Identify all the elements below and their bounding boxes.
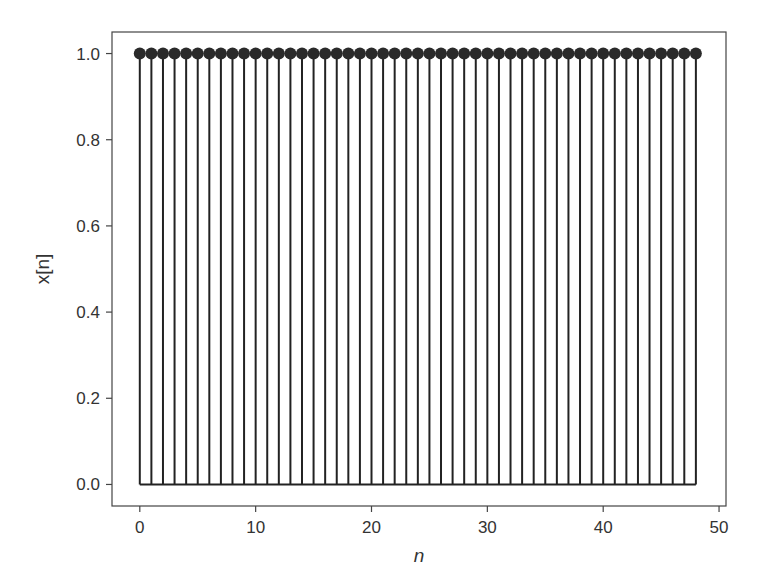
stem-marker <box>203 48 215 60</box>
x-axis-ticks: 01020304050 <box>135 506 728 537</box>
stem-marker <box>192 48 204 60</box>
stem-marker <box>644 48 656 60</box>
x-tick-label: 30 <box>478 518 497 537</box>
x-axis-label: n <box>414 545 425 566</box>
stem-marker <box>296 48 308 60</box>
stem-markers <box>134 48 702 60</box>
stem-marker <box>308 48 320 60</box>
stem-marker <box>145 48 157 60</box>
stem-marker <box>690 48 702 60</box>
stem-marker <box>481 48 493 60</box>
stem-marker <box>528 48 540 60</box>
x-tick-label: 40 <box>594 518 613 537</box>
stem-marker <box>169 48 181 60</box>
y-tick-label: 0.2 <box>76 389 100 408</box>
stem-marker <box>667 48 679 60</box>
y-tick-label: 0.6 <box>76 217 100 236</box>
stem-marker <box>423 48 435 60</box>
x-tick-label: 0 <box>135 518 144 537</box>
stem-marker <box>586 48 598 60</box>
stem-marker <box>400 48 412 60</box>
stem-marker <box>180 48 192 60</box>
y-axis-ticks: 0.00.20.40.60.81.0 <box>76 45 112 495</box>
stem-marker <box>655 48 667 60</box>
y-tick-label: 0.8 <box>76 131 100 150</box>
stem-marker <box>226 48 238 60</box>
stem-marker <box>250 48 262 60</box>
stem-marker <box>539 48 551 60</box>
stem-marker <box>632 48 644 60</box>
stem-marker <box>157 48 169 60</box>
stem-marker <box>562 48 574 60</box>
stem-marker <box>377 48 389 60</box>
stem-marker <box>134 48 146 60</box>
x-tick-label: 20 <box>362 518 381 537</box>
stem-marker <box>609 48 621 60</box>
stem-marker <box>354 48 366 60</box>
stem-marker <box>273 48 285 60</box>
stem-marker <box>215 48 227 60</box>
stem-marker <box>261 48 273 60</box>
stem-marker <box>389 48 401 60</box>
y-tick-label: 0.0 <box>76 475 100 494</box>
stem-marker <box>574 48 586 60</box>
stem-marker <box>516 48 528 60</box>
stem-marker <box>551 48 563 60</box>
stem-marker <box>366 48 378 60</box>
stem-marker <box>342 48 354 60</box>
stem-marker <box>470 48 482 60</box>
stem-marker <box>331 48 343 60</box>
x-tick-label: 10 <box>246 518 265 537</box>
stem-marker <box>493 48 505 60</box>
stem-marker <box>597 48 609 60</box>
stem-lines <box>140 54 696 485</box>
stem-marker <box>319 48 331 60</box>
stem-marker <box>620 48 632 60</box>
stem-marker <box>435 48 447 60</box>
stem-marker <box>447 48 459 60</box>
axes-frame <box>112 32 726 506</box>
stem-marker <box>412 48 424 60</box>
plot-canvas: 01020304050 0.00.20.40.60.81.0 n x[n] <box>0 0 768 584</box>
x-tick-label: 50 <box>710 518 729 537</box>
stem-marker <box>238 48 250 60</box>
stem-plot: 01020304050 0.00.20.40.60.81.0 n x[n] <box>0 0 768 584</box>
y-axis-label: x[n] <box>32 254 53 285</box>
stem-marker <box>458 48 470 60</box>
y-tick-label: 0.4 <box>76 303 100 322</box>
stem-marker <box>678 48 690 60</box>
stem-marker <box>284 48 296 60</box>
stem-marker <box>505 48 517 60</box>
y-tick-label: 1.0 <box>76 45 100 64</box>
